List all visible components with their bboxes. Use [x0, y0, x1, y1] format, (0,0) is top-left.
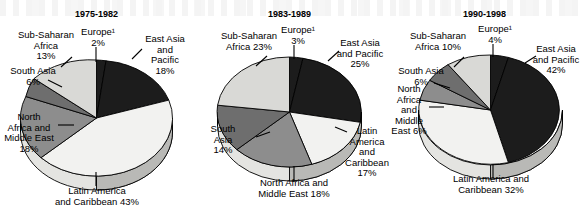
- label-north-africa: North Africa and Middle East 18%: [231, 178, 357, 199]
- label-south-asia: South Asia 14%: [195, 124, 251, 156]
- label-latin-america: Latin America and Caribbean 32%: [416, 174, 566, 195]
- label-sub-saharan: Sub-Saharan Africa 10%: [394, 31, 482, 52]
- label-east-asia: East Asia and Pacific 42%: [530, 44, 581, 76]
- label-east-asia: East Asia and Pacific 18%: [140, 34, 190, 76]
- pie-chart-panel-1983-1989: 1983-1989: [193, 0, 386, 210]
- label-east-asia: East Asia and Pacific 25%: [333, 38, 387, 70]
- label-latin-america: Latin America and Caribbean 43%: [26, 186, 168, 207]
- pie-chart-panel-1990-1998: 1990-1998: [388, 0, 581, 210]
- label-north-africa: North Africa and Middle East 18%: [0, 112, 58, 154]
- label-europe: Europe¹ 4%: [474, 24, 516, 45]
- label-north-africa: North Africa and Middle East 6%: [388, 84, 430, 137]
- label-latin-america: Latin America and Caribbean 17%: [345, 126, 389, 179]
- label-sub-saharan: Sub-Saharan Africa 13%: [10, 30, 82, 62]
- figure-root: 1975-1982: [0, 0, 581, 210]
- pie-stage: Sub-Saharan Africa 10% Europe¹ 4% East A…: [388, 0, 581, 210]
- slice-sub-saharan: [218, 57, 290, 112]
- label-south-asia: South Asia 6%: [2, 66, 64, 87]
- pie-stage: Sub-Saharan Africa 23% Europe¹ 3% East A…: [193, 0, 386, 210]
- label-europe: Europe¹ 2%: [77, 27, 119, 48]
- label-europe: Europe¹ 3%: [277, 25, 319, 46]
- pie-stage: Sub-Saharan Africa 13% Europe¹ 2% East A…: [0, 0, 193, 210]
- pie-chart-panel-1975-1982: 1975-1982: [0, 0, 193, 210]
